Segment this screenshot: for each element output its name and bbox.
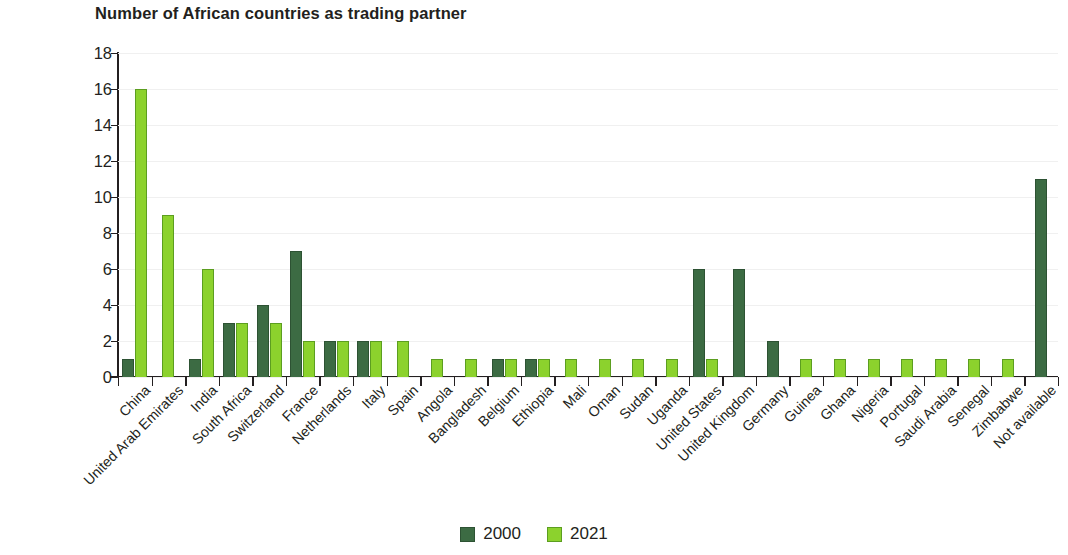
bar-2021[interactable] xyxy=(935,359,947,377)
y-tick-label: 12 xyxy=(78,152,112,171)
bar-2021[interactable] xyxy=(706,359,718,377)
plot-area xyxy=(118,53,1058,377)
y-tick-mark xyxy=(111,89,118,90)
bar-group xyxy=(420,53,454,377)
y-tick-mark xyxy=(111,341,118,342)
bar-2021[interactable] xyxy=(465,359,477,377)
bar-group xyxy=(521,53,555,377)
y-tick-label: 10 xyxy=(78,188,112,207)
bar-group xyxy=(823,53,857,377)
y-tick-mark xyxy=(111,161,118,162)
x-tick-mark xyxy=(1058,377,1059,386)
y-tick-mark xyxy=(111,197,118,198)
y-tick-mark xyxy=(111,233,118,234)
y-tick-label: 0 xyxy=(78,368,112,387)
bar-group xyxy=(756,53,790,377)
bar-2021[interactable] xyxy=(337,341,349,377)
bar-2021[interactable] xyxy=(565,359,577,377)
bar-group xyxy=(286,53,320,377)
bar-2021[interactable] xyxy=(834,359,846,377)
y-tick-label: 2 xyxy=(78,332,112,351)
bar-2021[interactable] xyxy=(202,269,214,377)
y-tick-label: 8 xyxy=(78,224,112,243)
bar-group xyxy=(991,53,1025,377)
bar-group xyxy=(555,53,589,377)
bar-group xyxy=(722,53,756,377)
page-title: Number of African countries as trading p… xyxy=(95,4,467,23)
bar-group xyxy=(1025,53,1059,377)
bar-group xyxy=(118,53,152,377)
y-tick-label: 16 xyxy=(78,80,112,99)
y-tick-label: 4 xyxy=(78,296,112,315)
y-tick-mark xyxy=(111,377,118,378)
chart-legend: 20002021 xyxy=(0,524,1068,544)
bar-2000[interactable] xyxy=(223,323,235,377)
y-tick-label: 14 xyxy=(78,116,112,135)
y-tick-mark xyxy=(111,305,118,306)
bar-2021[interactable] xyxy=(162,215,174,377)
bar-2000[interactable] xyxy=(767,341,779,377)
chart-page: Number of African countries as trading p… xyxy=(0,0,1068,555)
bar-2021[interactable] xyxy=(666,359,678,377)
bar-group xyxy=(454,53,488,377)
bar-2000[interactable] xyxy=(189,359,201,377)
y-tick-mark xyxy=(111,125,118,126)
bar-2021[interactable] xyxy=(968,359,980,377)
legend-label: 2021 xyxy=(570,524,608,544)
bar-2021[interactable] xyxy=(800,359,812,377)
bar-2000[interactable] xyxy=(733,269,745,377)
bar-2021[interactable] xyxy=(370,341,382,377)
bar-group xyxy=(319,53,353,377)
y-tick-label: 18 xyxy=(78,44,112,63)
x-tick-label: Oman xyxy=(584,382,623,421)
bar-2021[interactable] xyxy=(236,323,248,377)
bar-2021[interactable] xyxy=(538,359,550,377)
bar-2000[interactable] xyxy=(492,359,504,377)
y-axis-labels: 024681012141618 xyxy=(76,53,112,377)
legend-label: 2000 xyxy=(483,524,521,544)
bar-group xyxy=(353,53,387,377)
bar-group xyxy=(185,53,219,377)
bar-group xyxy=(622,53,656,377)
bar-group xyxy=(857,53,891,377)
legend-swatch-icon xyxy=(460,527,475,542)
bar-2000[interactable] xyxy=(525,359,537,377)
bar-2021[interactable] xyxy=(135,89,147,377)
bar-2000[interactable] xyxy=(122,359,134,377)
bar-2000[interactable] xyxy=(693,269,705,377)
bar-2021[interactable] xyxy=(901,359,913,377)
x-axis-labels: ChinaUnited Arab EmiratesIndiaSouth Afri… xyxy=(118,382,1058,502)
bar-2000[interactable] xyxy=(357,341,369,377)
bar-2021[interactable] xyxy=(303,341,315,377)
bar-group xyxy=(387,53,421,377)
bar-2000[interactable] xyxy=(290,251,302,377)
bar-group xyxy=(689,53,723,377)
bar-2021[interactable] xyxy=(397,341,409,377)
bar-2021[interactable] xyxy=(1002,359,1014,377)
bar-2021[interactable] xyxy=(868,359,880,377)
legend-item-2021[interactable]: 2021 xyxy=(547,524,608,544)
bar-2021[interactable] xyxy=(505,359,517,377)
bar-group xyxy=(487,53,521,377)
bar-group xyxy=(219,53,253,377)
y-tick-label: 6 xyxy=(78,260,112,279)
bar-group xyxy=(152,53,186,377)
bar-2021[interactable] xyxy=(270,323,282,377)
bar-group xyxy=(655,53,689,377)
bar-2021[interactable] xyxy=(632,359,644,377)
bar-2021[interactable] xyxy=(431,359,443,377)
bar-2000[interactable] xyxy=(324,341,336,377)
bar-group xyxy=(252,53,286,377)
bar-groups xyxy=(118,53,1058,377)
bar-group xyxy=(890,53,924,377)
bar-group xyxy=(957,53,991,377)
y-tick-mark xyxy=(111,269,118,270)
bar-group xyxy=(588,53,622,377)
bar-2000[interactable] xyxy=(257,305,269,377)
legend-swatch-icon xyxy=(547,527,562,542)
legend-item-2000[interactable]: 2000 xyxy=(460,524,521,544)
bar-group xyxy=(790,53,824,377)
bar-2021[interactable] xyxy=(599,359,611,377)
bar-2000[interactable] xyxy=(1035,179,1047,377)
bar-group xyxy=(924,53,958,377)
